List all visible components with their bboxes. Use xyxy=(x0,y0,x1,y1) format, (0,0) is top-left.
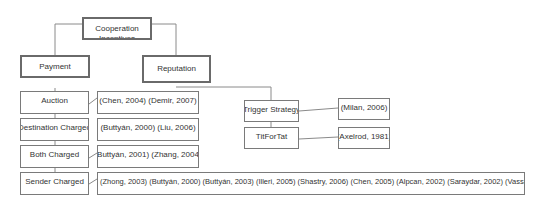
refs-node-both-charged: (Buttyán, 2001) (Zhang, 2004) xyxy=(97,145,199,168)
scheme-node-both-charged: Both Charged xyxy=(20,145,89,168)
category-label: Payment xyxy=(39,62,71,72)
scheme-node-auction: Auction xyxy=(20,91,89,114)
refs-node-destination-charged: (Buttyán, 2000) (Liu, 2006) xyxy=(97,118,199,141)
scheme-node-trigger-strategy: Trigger Strategy xyxy=(244,100,299,122)
root-node-cooperation-incentives: Cooperation Incentives xyxy=(82,17,152,40)
refs-label: (Buttyán, 2001) (Zhang, 2004) xyxy=(97,150,199,160)
scheme-node-sender-charged: Sender Charged xyxy=(20,172,89,195)
refs-label: (Chen, 2004) (Demir, 2007) xyxy=(99,96,196,106)
scheme-label: Auction xyxy=(41,96,68,106)
refs-node-auction: (Chen, 2004) (Demir, 2007) xyxy=(97,91,199,114)
category-node-payment: Payment xyxy=(20,55,90,78)
scheme-label: Sender Charged xyxy=(25,177,84,187)
category-node-reputation: Reputation xyxy=(142,55,211,83)
scheme-label: Destination Charged xyxy=(20,123,89,133)
refs-node-sender-charged: (Zhong, 2003) (Buttyán, 2000) (Buttyán, … xyxy=(97,172,525,195)
refs-label: (Axelrod, 1981) xyxy=(338,132,390,142)
refs-label: (Milan, 2006) xyxy=(341,103,388,113)
refs-node-titfortat: (Axelrod, 1981) xyxy=(338,127,390,149)
refs-label: (Buttyán, 2000) (Liu, 2006) xyxy=(100,123,195,133)
refs-node-trigger-strategy: (Milan, 2006) xyxy=(338,98,390,120)
root-node-label: Cooperation Incentives xyxy=(84,24,150,40)
scheme-label: Trigger Strategy xyxy=(244,105,299,115)
refs-label: (Zhong, 2003) (Buttyán, 2000) (Buttyán, … xyxy=(100,177,525,187)
scheme-label: Both Charged xyxy=(30,150,79,160)
scheme-node-destination-charged: Destination Charged xyxy=(20,118,89,141)
scheme-label: TitForTat xyxy=(256,132,287,142)
category-label: Reputation xyxy=(157,64,196,74)
scheme-node-titfortat: TitForTat xyxy=(244,127,299,149)
